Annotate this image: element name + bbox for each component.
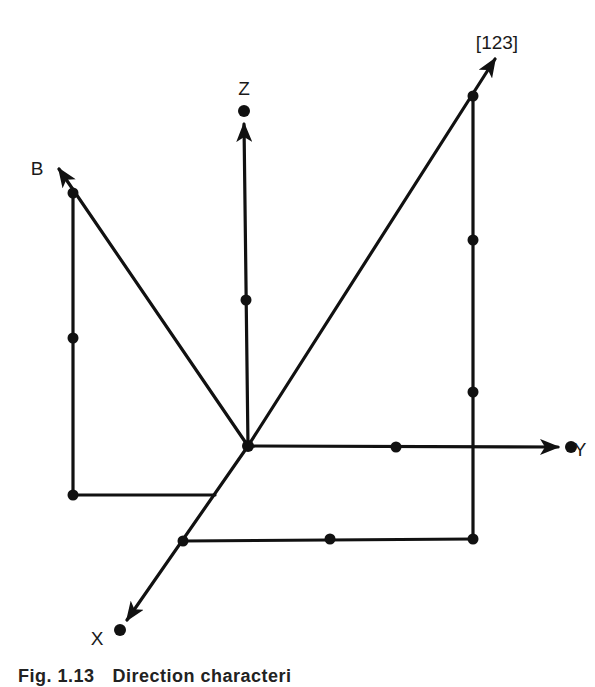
b-vector [59, 169, 248, 446]
z-axis-label: Z [238, 79, 250, 98]
b-vector-label: B [31, 159, 44, 178]
x-axis [127, 446, 248, 620]
direction-123-label: [123] [476, 33, 518, 52]
direction-123-vertical-point-2 [468, 387, 479, 398]
y-axis-midpoint [391, 442, 402, 453]
y-axis-label: Y [574, 440, 587, 459]
figure-caption: Fig. 1.13Direction characteri [18, 666, 292, 687]
direction-123-corner-point [468, 534, 479, 545]
z-axis-midpoint [241, 295, 252, 306]
figure-number: Fig. 1.13 [18, 666, 95, 686]
x-axis-label: X [91, 629, 104, 648]
b-vertical-midpoint [68, 333, 79, 344]
figure-caption-text: Direction characteri [113, 666, 292, 686]
x-axis-midpoint [178, 536, 189, 547]
b-corner-point [68, 490, 79, 501]
x-axis-endpoint [114, 624, 126, 636]
direction-123-point [468, 91, 479, 102]
direction-123-horizontal-midpoint [325, 534, 336, 545]
z-axis-endpoint [238, 105, 250, 117]
direction-123-vertical-point-1 [468, 235, 479, 246]
direction-123-vector [248, 59, 495, 446]
y-axis [248, 446, 558, 447]
b-vector-point [68, 188, 79, 199]
origin-point [242, 440, 254, 452]
z-axis [244, 124, 248, 446]
